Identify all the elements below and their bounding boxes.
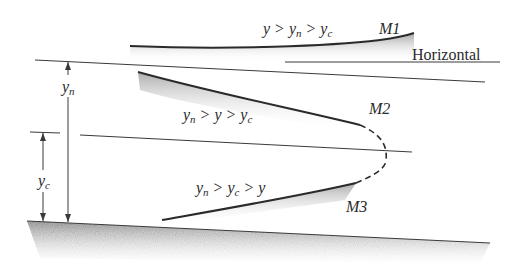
m1-condition-label: y > yn > yc: [261, 20, 332, 39]
m-profile-diagram: yn yc y > yn > yc M1 Horizontal yn > y >…: [0, 0, 530, 264]
m2-name-label: M2: [368, 100, 390, 117]
critical-depth-line: [80, 135, 412, 152]
horizontal-label: Horizontal: [412, 46, 481, 63]
m2-condition-label: yn > y > yc: [181, 106, 252, 125]
m2-curve: [138, 72, 386, 160]
m1-curve: [130, 33, 414, 62]
normal-depth-line: [35, 60, 485, 82]
m3-name-label: M3: [345, 198, 367, 215]
critical-depth-line-left: [30, 132, 60, 133]
m1-name-label: M1: [378, 20, 400, 37]
m3-condition-label: yn > yc > y: [194, 179, 266, 198]
channel-bed: [27, 221, 490, 264]
